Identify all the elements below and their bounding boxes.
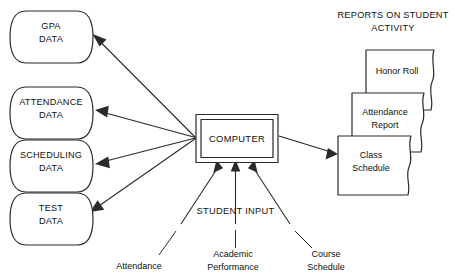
data-store-scheduling-line2: DATA xyxy=(39,163,64,173)
computer-node[interactable]: COMPUTER xyxy=(196,115,278,163)
report-attendance-line2: Report xyxy=(371,120,399,130)
student-input-title: STUDENT INPUT xyxy=(196,206,274,216)
report-document-class-schedule[interactable]: Class Schedule xyxy=(338,136,411,195)
student-input-academic-line1: Academic xyxy=(213,249,253,259)
data-store-attendance[interactable]: ATTENDANCE DATA xyxy=(10,87,93,139)
reports-heading-line1: REPORTS ON STUDENT xyxy=(337,10,448,20)
report-class-schedule-line1: Class xyxy=(360,150,383,160)
arrow-computer-to-scheduling xyxy=(95,138,196,168)
student-input-course-line2: Schedule xyxy=(307,262,345,272)
computer-label: COMPUTER xyxy=(209,133,265,144)
arrow-computer-to-gpa xyxy=(93,34,196,138)
data-store-scheduling-line1: SCHEDULING xyxy=(20,150,82,160)
reports-heading-line2: ACTIVITY xyxy=(371,23,414,33)
student-input-attendance: Attendance xyxy=(116,261,162,271)
report-attendance-line1: Attendance xyxy=(362,107,408,117)
student-input-group: STUDENT INPUT Attendance Academic Perfor… xyxy=(116,206,345,272)
leader-line-course-schedule xyxy=(295,231,312,248)
report-honor-roll-line1: Honor Roll xyxy=(376,66,419,76)
reports-heading: REPORTS ON STUDENT ACTIVITY xyxy=(337,10,448,33)
data-store-test[interactable]: TEST DATA xyxy=(10,193,93,245)
student-input-course-line1: Course xyxy=(311,249,340,259)
leader-line-attendance-input xyxy=(159,231,176,255)
data-store-gpa-line1: GPA xyxy=(41,21,61,31)
data-store-gpa-line2: DATA xyxy=(39,34,64,44)
report-class-schedule-line2: Schedule xyxy=(352,163,390,173)
student-data-flow-diagram: GPA DATA ATTENDANCE DATA SCHEDULING DATA… xyxy=(0,0,470,279)
student-input-academic-line2: Performance xyxy=(207,262,259,272)
data-store-gpa[interactable]: GPA DATA xyxy=(10,11,93,63)
diagram-canvas: GPA DATA ATTENDANCE DATA SCHEDULING DATA… xyxy=(0,0,470,279)
arrow-computer-to-reports xyxy=(279,136,338,159)
data-store-test-line1: TEST xyxy=(39,203,63,213)
data-store-attendance-line2: DATA xyxy=(39,110,64,120)
arrow-computer-to-test xyxy=(90,139,196,213)
data-store-attendance-line1: ATTENDANCE xyxy=(19,97,83,107)
data-store-test-line2: DATA xyxy=(39,216,64,226)
data-store-scheduling[interactable]: SCHEDULING DATA xyxy=(10,140,93,192)
